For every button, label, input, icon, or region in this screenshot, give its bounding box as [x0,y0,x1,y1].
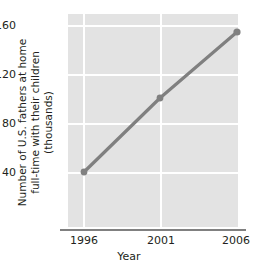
xtick-label-2001: 2001 [136,234,186,247]
x-axis-line [60,229,246,231]
data-series-group [68,14,238,227]
plot-area [68,14,238,227]
ytick-label-120: 120 [0,69,16,80]
ytick-label-40: 40 [0,167,16,178]
xtick-label-2006: 2006 [211,234,258,247]
data-point-2001 [157,95,164,102]
xtick-label-1996: 1996 [59,234,109,247]
y-axis-title: Number of U.S. fathers at home full-time… [16,25,55,221]
series-line [84,32,237,172]
ytick-label-80: 80 [0,118,16,129]
data-point-1996 [81,169,88,176]
x-axis-title: Year [0,250,258,263]
line-chart-figure: 160 120 80 40 Number of U.S. fathers at … [0,0,258,267]
data-point-2006 [233,28,240,35]
ytick-label-160: 160 [0,20,16,31]
